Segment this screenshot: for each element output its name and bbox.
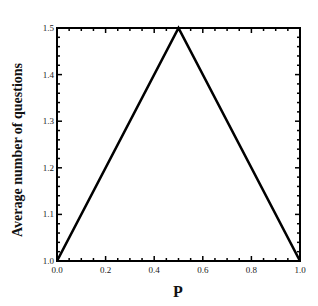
x-tick-label: 0.6 [197,265,209,275]
x-tick-label: 1.0 [294,265,306,275]
y-tick-label: 1.1 [43,209,54,219]
y-tick-label: 1.5 [43,23,55,33]
x-axis-tick-labels: 0.00.20.40.60.81.0 [51,265,306,275]
y-tick-label: 1.0 [43,256,55,266]
x-tick-label: 0.0 [51,265,63,275]
y-tick-label: 1.2 [43,163,54,173]
line-chart: 0.00.20.40.60.81.0 1.01.11.21.31.41.5 P … [0,0,318,306]
y-axis-title: Average number of questions [10,62,25,237]
x-axis-title: P [173,283,183,300]
y-tick-label: 1.4 [43,70,55,80]
data-series [57,28,300,261]
series-line [57,28,300,261]
y-tick-label: 1.3 [43,116,55,126]
x-tick-label: 0.8 [246,265,258,275]
y-axis-tick-labels: 1.01.11.21.31.41.5 [43,23,55,266]
x-tick-label: 0.2 [100,265,111,275]
x-tick-label: 0.4 [149,265,161,275]
minor-ticks [57,28,300,261]
major-ticks [57,28,300,261]
plot-frame [57,28,300,261]
